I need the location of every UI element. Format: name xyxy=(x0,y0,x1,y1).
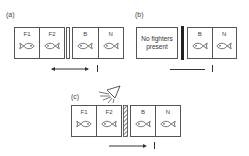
marker-i xyxy=(154,142,155,149)
fish-icon xyxy=(77,42,93,50)
cell-label: N xyxy=(213,31,237,37)
cell-f2: F2 xyxy=(39,28,64,58)
cell-f1: F1 xyxy=(15,28,39,58)
cell-b: B xyxy=(73,28,98,58)
plain-line xyxy=(170,69,205,70)
one-way-mirror xyxy=(123,105,128,137)
double-arrow-icon xyxy=(50,66,90,72)
fish-icon xyxy=(192,42,208,50)
cell-label: F2 xyxy=(40,31,64,37)
bystander-tank-b: B N xyxy=(187,27,237,59)
cell-n: N xyxy=(212,28,237,58)
marker-i xyxy=(212,65,213,72)
fish-icon xyxy=(44,42,60,50)
lamp-icon xyxy=(96,84,122,104)
fish-icon xyxy=(160,120,176,128)
fighter-tank-c: F1 F2 xyxy=(71,105,122,137)
bystander-tank-a: B N xyxy=(72,27,124,59)
panel-label-c: (c) xyxy=(71,93,79,100)
panel-label-b: (b) xyxy=(135,11,144,18)
cell-label: B xyxy=(188,31,212,37)
empty-tank-b: No fighterspresent xyxy=(136,27,178,59)
cell-label: F1 xyxy=(15,31,39,37)
cell-label: F1 xyxy=(72,109,96,115)
cell-label: N xyxy=(156,109,180,115)
fighter-tank-a: F1 F2 xyxy=(14,27,65,59)
right-arrow-icon xyxy=(108,143,148,149)
no-fighters-message: No fighterspresent xyxy=(137,28,177,58)
panel-label-a: (a) xyxy=(6,11,15,18)
marker-i xyxy=(97,65,98,72)
cell-b: B xyxy=(188,28,212,58)
cell-label: B xyxy=(131,109,155,115)
opaque-divider xyxy=(66,27,70,59)
fish-icon xyxy=(103,42,119,50)
cell-f1: F1 xyxy=(72,106,96,136)
cell-b: B xyxy=(131,106,155,136)
bystander-tank-c: B N xyxy=(130,105,181,137)
message-line-1: No fighters xyxy=(141,35,172,42)
cell-label: B xyxy=(73,31,98,37)
fish-icon xyxy=(101,120,117,128)
fish-icon xyxy=(135,120,151,128)
solid-divider xyxy=(181,26,184,60)
fish-icon xyxy=(216,42,232,50)
cell-label: F2 xyxy=(97,109,121,115)
message-line-2: present xyxy=(146,43,168,50)
fish-icon xyxy=(19,42,35,50)
cell-label: N xyxy=(99,31,124,37)
cell-n: N xyxy=(155,106,180,136)
cell-f2: F2 xyxy=(96,106,121,136)
cell-n: N xyxy=(98,28,124,58)
fish-icon xyxy=(76,120,92,128)
